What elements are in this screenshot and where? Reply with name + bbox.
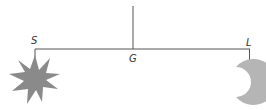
- label-l: L: [246, 37, 252, 48]
- diagram-canvas: S G L: [0, 0, 266, 110]
- sun-star-icon: [9, 55, 60, 104]
- label-s: S: [31, 35, 38, 46]
- label-g: G: [129, 53, 137, 64]
- crescent-moon-icon: [236, 59, 266, 105]
- mobile-diagram: S G L: [0, 0, 266, 110]
